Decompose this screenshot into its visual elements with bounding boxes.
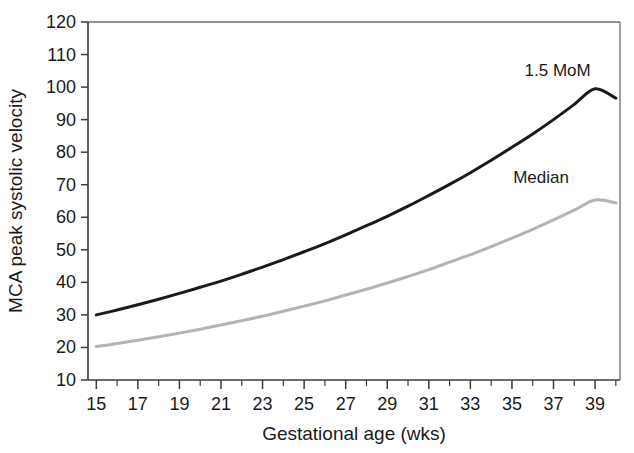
x-tick-label-23: 23 [253,394,273,414]
y-tick-label-70: 70 [56,175,76,195]
chart-canvas: 102030405060708090100110120 151719212325… [0,0,634,453]
y-tick-label-50: 50 [56,240,76,260]
y-tick-label-10: 10 [56,370,76,390]
series-label-1-5-mom: 1.5 MoM [525,61,591,80]
y-tick-label-100: 100 [46,77,76,97]
y-axis-title: MCA peak systolic velocity [5,89,26,313]
x-tick-label-37: 37 [543,394,563,414]
x-tick-label-27: 27 [336,394,356,414]
chart-page: 102030405060708090100110120 151719212325… [0,0,634,453]
y-tick-label-20: 20 [56,337,76,357]
x-tick-label-33: 33 [460,394,480,414]
x-tick-label-25: 25 [294,394,314,414]
y-tick-label-80: 80 [56,142,76,162]
y-tick-label-60: 60 [56,207,76,227]
y-tick-label-30: 30 [56,305,76,325]
x-tick-label-19: 19 [169,394,189,414]
x-tick-label-17: 17 [128,394,148,414]
x-axis-title: Gestational age (wks) [262,423,446,444]
y-tick-label-90: 90 [56,110,76,130]
x-tick-label-35: 35 [502,394,522,414]
x-tick-label-29: 29 [377,394,397,414]
mca-psv-chart: 102030405060708090100110120 151719212325… [0,0,634,453]
x-tick-label-31: 31 [419,394,439,414]
x-tick-label-15: 15 [86,394,106,414]
y-tick-label-120: 120 [46,12,76,32]
y-tick-label-40: 40 [56,272,76,292]
x-tick-label-21: 21 [211,394,231,414]
y-tick-label-110: 110 [47,45,76,65]
series-label-median: Median [513,168,569,187]
x-tick-label-39: 39 [585,394,605,414]
